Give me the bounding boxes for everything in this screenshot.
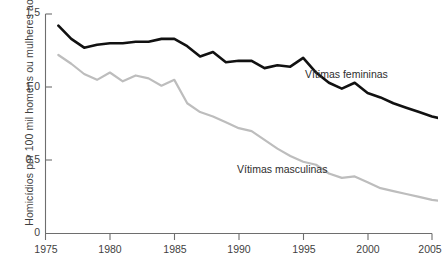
x-tick-label: 2005 <box>410 243 446 255</box>
x-tick-label: 1990 <box>219 243 259 255</box>
x-tick-label: 2000 <box>348 243 388 255</box>
x-tick-label: 1995 <box>284 243 324 255</box>
x-tick-label: 1985 <box>155 243 195 255</box>
x-tick-label: 1980 <box>90 243 130 255</box>
series-annotation-vitimas-femininas: Vítimas femininas <box>305 68 388 80</box>
series-annotation-vitimas-masculinas: Vítimas masculinas <box>237 163 327 175</box>
x-tick-label: 1975 <box>26 243 66 255</box>
